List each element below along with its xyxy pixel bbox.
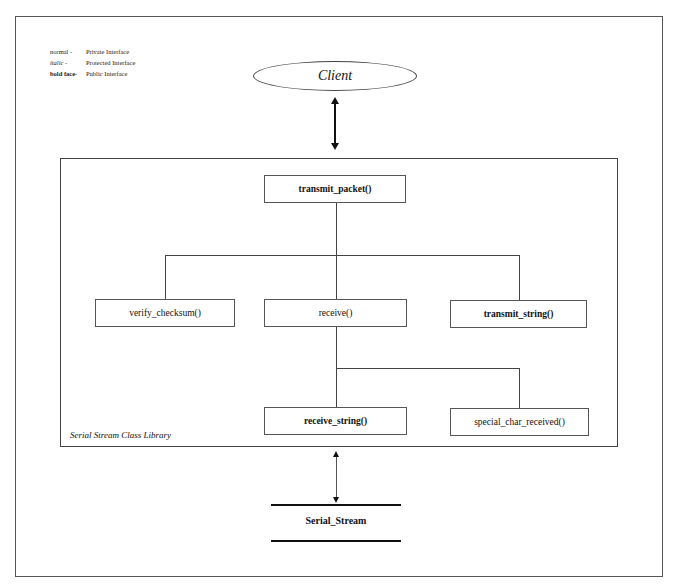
- node-receive: receive(): [264, 299, 407, 327]
- client-library-connector: [334, 101, 336, 145]
- stream-bottom-line: [271, 540, 401, 542]
- node-receive-string: receive_string(): [264, 407, 407, 435]
- node-label: transmit_string(): [484, 309, 554, 319]
- arrow-up-icon: [333, 451, 339, 457]
- stream-top-line: [271, 504, 401, 506]
- arrow-down-icon: [331, 143, 339, 150]
- connector-to-transmit-string: [519, 255, 520, 300]
- library-stream-connector: [336, 455, 337, 499]
- arrow-down-icon: [333, 497, 339, 503]
- connector-transmit-packet-trunk: [336, 203, 337, 299]
- legend-meaning: Private Interface: [86, 46, 129, 57]
- connector-to-special-char: [519, 368, 520, 408]
- node-label: transmit_packet(): [299, 184, 372, 194]
- node-label: verify_checksum(): [129, 308, 201, 318]
- library-label: Serial Stream Class Library: [70, 430, 171, 440]
- legend-row-private: normal - Private Interface: [50, 46, 135, 57]
- node-transmit-packet: transmit_packet(): [264, 175, 406, 203]
- legend-key: normal -: [50, 46, 86, 57]
- legend-meaning: Public Interface: [86, 68, 127, 79]
- legend-row-protected: italic - Protected Interface: [50, 57, 135, 68]
- client-label: Client: [318, 68, 352, 84]
- connector-receive-trunk: [336, 327, 337, 407]
- node-label: special_char_received(): [474, 417, 565, 427]
- serial-stream-label: Serial_Stream: [271, 515, 401, 526]
- legend-key: italic -: [50, 57, 86, 68]
- node-label: receive(): [319, 308, 353, 318]
- legend: normal - Private Interface italic - Prot…: [50, 46, 135, 79]
- node-transmit-string: transmit_string(): [450, 300, 587, 328]
- node-verify-checksum: verify_checksum(): [95, 299, 235, 327]
- legend-meaning: Protected Interface: [86, 57, 135, 68]
- connector-level2-bus: [336, 368, 520, 369]
- node-special-char-received: special_char_received(): [450, 408, 589, 436]
- client-node: Client: [253, 61, 417, 91]
- arrow-up-icon: [331, 97, 339, 104]
- connector-level1-bus: [165, 255, 520, 256]
- legend-row-public: bold face- Public Interface: [50, 68, 135, 79]
- node-label: receive_string(): [304, 416, 367, 426]
- connector-to-verify-checksum: [165, 255, 166, 299]
- legend-key: bold face-: [50, 68, 86, 79]
